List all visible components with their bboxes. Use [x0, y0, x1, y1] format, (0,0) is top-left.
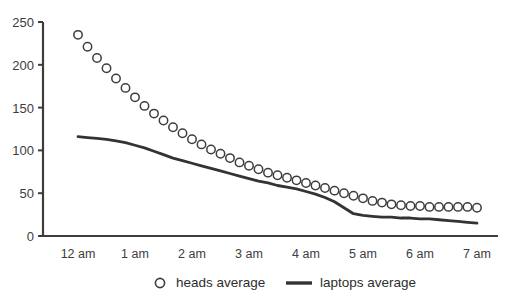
x-tick-label-5-am: 5 am [349, 247, 377, 261]
heads-average-marker [207, 145, 215, 153]
chart-legend: heads averagelaptops average [155, 275, 416, 290]
y-tick-label-0: 0 [27, 229, 34, 244]
heads-average-marker [112, 74, 120, 82]
x-tick-label-12-am: 12 am [61, 247, 96, 261]
heads-average-marker [463, 203, 471, 211]
y-tick-label-200: 200 [12, 58, 34, 73]
heads-average-marker [330, 186, 338, 194]
heads-average-marker [359, 194, 367, 202]
heads-average-marker [283, 174, 291, 182]
x-tick-label-6-am: 6 am [406, 247, 434, 261]
heads-average-marker [121, 84, 129, 92]
x-axis: 12 am1 am2 am3 am4 am5 am6 am7 am [43, 236, 498, 261]
heads-average-marker [188, 135, 196, 143]
heads-average-marker [102, 64, 110, 72]
heads-average-marker [435, 203, 443, 211]
heads-average-marker [197, 140, 205, 148]
heads-average-marker [473, 204, 481, 212]
heads-average-marker [264, 168, 272, 176]
heads-average-marker [245, 162, 253, 170]
heads-average-marker [416, 202, 424, 210]
heads-average-marker [444, 203, 452, 211]
x-tick-label-2-am: 2 am [178, 247, 206, 261]
legend-marker-circle-icon [155, 278, 164, 287]
heads-average-marker [425, 203, 433, 211]
heads-average-marker [159, 116, 167, 124]
heads-average-marker [178, 129, 186, 137]
x-tick-label-7-am: 7 am [463, 247, 491, 261]
heads-average-marker [93, 54, 101, 62]
heads-average-marker [74, 31, 82, 39]
heads-average-marker [169, 123, 177, 131]
heads-average-marker [321, 184, 329, 192]
heads-average-marker [150, 109, 158, 117]
heads-average-marker [387, 200, 395, 208]
heads-average-marker [454, 203, 462, 211]
heads-average-marker [226, 154, 234, 162]
heads-average-marker [368, 197, 376, 205]
y-tick-label-150: 150 [12, 101, 34, 116]
heads-average-marker [254, 165, 262, 173]
heads-average-marker [140, 102, 148, 110]
heads-average-marker [235, 158, 243, 166]
heads-average-marker [340, 189, 348, 197]
heads-average-marker [397, 201, 405, 209]
legend-label-heads-average: heads average [176, 275, 265, 290]
chart-container: 050100150200250 12 am1 am2 am3 am4 am5 a… [0, 0, 505, 304]
heads-average-marker [216, 150, 224, 158]
heads-average-marker [83, 43, 91, 51]
heads-average-marker [311, 181, 319, 189]
heads-average-marker [131, 93, 139, 101]
y-axis: 050100150200250 [12, 15, 43, 244]
y-tick-label-50: 50 [20, 186, 34, 201]
heads-average-marker [302, 179, 310, 187]
x-tick-label-1-am: 1 am [121, 247, 149, 261]
heads-average-marker [406, 202, 414, 210]
y-tick-label-100: 100 [12, 143, 34, 158]
heads-average-marker [273, 171, 281, 179]
chart-plot-area: 050100150200250 12 am1 am2 am3 am4 am5 a… [0, 0, 505, 304]
y-tick-label-250: 250 [12, 15, 34, 30]
legend-label-laptops-average: laptops average [320, 275, 416, 290]
x-tick-label-4-am: 4 am [292, 247, 320, 261]
x-tick-label-3-am: 3 am [235, 247, 263, 261]
heads-average-marker [378, 198, 386, 206]
heads-average-marker [349, 192, 357, 200]
heads-average-marker [292, 176, 300, 184]
